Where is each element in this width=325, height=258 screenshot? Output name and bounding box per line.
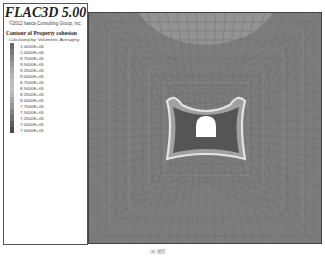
- model-plot[interactable]: [88, 12, 322, 244]
- legend-panel: FLAC3D 5.00 ©2012 Itasca Consulting Grou…: [3, 3, 88, 245]
- legend-value: 7.7500E+05: [20, 104, 44, 109]
- tunnel-opening: [196, 116, 216, 137]
- legend-value: 8.5000E+05: [20, 86, 44, 91]
- legend-value: 8.7500E+05: [20, 80, 44, 85]
- legend-value: 9.2500E+05: [20, 68, 44, 73]
- legend-value: 8.2500E+05: [20, 92, 44, 97]
- legend-value: 7.2500E+05: [20, 116, 44, 121]
- legend-value: 7.0000E+05: [20, 128, 44, 133]
- legend-value: 9.0000E+05: [20, 74, 44, 79]
- legend-entry: 7.0000E+05: [10, 127, 44, 133]
- mesh-grid: [89, 13, 322, 244]
- legend-list: 1.0000E+061.0000E+069.7500E+059.5000E+05…: [10, 43, 44, 133]
- app-title: FLAC3D 5.00: [4, 5, 87, 21]
- legend-value: 7.0000E+05: [20, 122, 44, 127]
- legend-swatch: [10, 127, 14, 133]
- legend-value: 9.7500E+05: [20, 56, 44, 61]
- figure-caption: (a) 模型: [150, 248, 165, 254]
- legend-value: 7.5000E+05: [20, 110, 44, 115]
- copyright-text: ©2012 Itasca Consulting Group, Inc.: [4, 21, 87, 26]
- calc-method: Calculated by: Volumetric Averaging: [9, 37, 79, 42]
- legend-value: 1.0000E+06: [20, 50, 44, 55]
- legend-value: 1.0000E+06: [20, 44, 44, 49]
- legend-value: 9.5000E+05: [20, 62, 44, 67]
- legend-value: 8.0000E+05: [20, 98, 44, 103]
- contour-heading: Contour of Property cohesion: [6, 30, 77, 36]
